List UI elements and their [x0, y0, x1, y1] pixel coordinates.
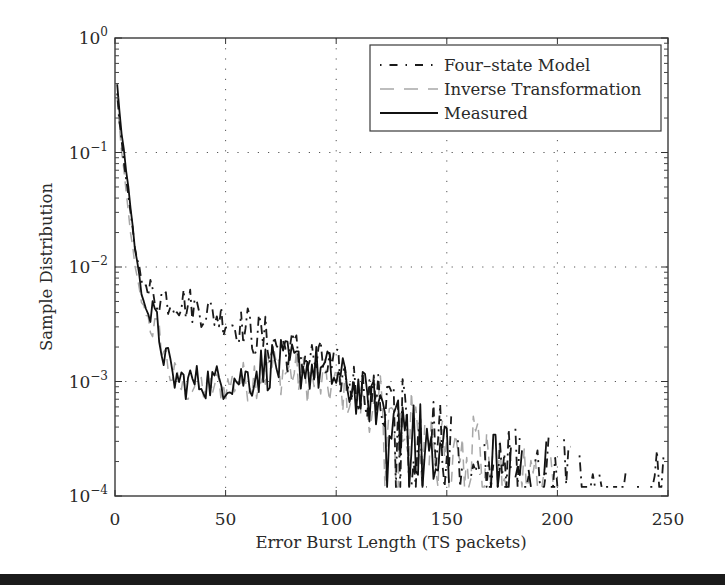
series-line-four-state-model	[553, 458, 560, 487]
x-tick-label: 0	[110, 509, 121, 529]
series-line-measured	[117, 84, 449, 487]
x-tick-label: 50	[215, 509, 237, 529]
series-line-measured	[529, 470, 531, 487]
series-line-measured	[544, 442, 546, 476]
series-layer	[117, 84, 663, 487]
series-line-four-state-model	[564, 439, 571, 484]
x-tick-label: 200	[541, 509, 573, 529]
y-tick-label: 10−2	[69, 254, 108, 277]
x-axis-title: Error Burst Length (TS packets)	[255, 533, 526, 552]
series-line-inverse-transformation	[551, 457, 553, 482]
series-line-four-state-model	[515, 429, 519, 487]
legend-label-four-state: Four–state Model	[444, 56, 590, 75]
x-tick-labels: 050100150200250	[110, 509, 685, 529]
series-line-inverse-transformation	[117, 97, 425, 487]
legend-label-measured: Measured	[444, 104, 528, 123]
y-tick-label: 10−3	[69, 369, 108, 392]
y-tick-label: 100	[79, 25, 108, 48]
series-line-four-state-model	[471, 462, 480, 476]
series-line-four-state-model	[637, 486, 642, 487]
legend: Four–state Model Inverse Transformation …	[370, 45, 661, 131]
x-tick-label: 100	[320, 509, 352, 529]
series-line-four-state-model	[580, 455, 596, 487]
y-axis-title: Sample Distribution	[37, 183, 56, 351]
series-line-four-state-model	[599, 475, 601, 487]
legend-label-inverse-transformation: Inverse Transformation	[444, 80, 642, 99]
x-tick-label: 250	[652, 509, 684, 529]
y-tick-label: 10−1	[69, 140, 108, 163]
chart: 050100150200250 10010−110−210−310−4 Erro…	[0, 0, 725, 585]
series-line-four-state-model	[622, 470, 627, 487]
x-tick-label: 150	[431, 509, 463, 529]
y-tick-label: 10−4	[69, 483, 109, 506]
series-line-four-state-model	[650, 451, 663, 487]
page-bottom-bar	[0, 574, 725, 585]
y-tick-labels: 10010−110−210−310−4	[69, 25, 109, 506]
